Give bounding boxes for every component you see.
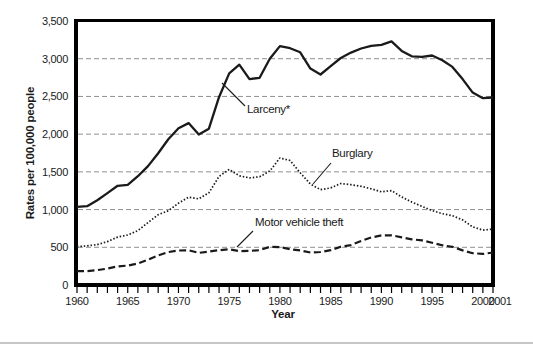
page-bottom-rule <box>0 342 533 344</box>
burglary-series-label: Burglary <box>332 147 372 159</box>
x-tick-label: 1960 <box>56 294 98 308</box>
larceny-line <box>77 41 493 207</box>
x-axis-line <box>74 283 495 287</box>
axis-border-right <box>491 19 495 287</box>
burglary-line <box>77 158 493 247</box>
x-tick-label: 2001 <box>479 294 521 308</box>
y-tick-label: 2,500 <box>22 89 68 103</box>
annotation-leader-line <box>237 231 253 247</box>
x-tick-label: 1970 <box>157 294 199 308</box>
axis-border-top <box>74 19 495 22</box>
x-tick-label: 1985 <box>310 294 352 308</box>
y-tick-label: 1,000 <box>22 203 68 217</box>
annotation-leader-line <box>313 163 331 184</box>
x-axis-title: Year <box>271 308 295 320</box>
y-tick-label: 500 <box>22 240 68 254</box>
crime-rates-figure: Rates per 100,000 people Year Larceny* B… <box>0 0 533 345</box>
y-tick-label: 0 <box>22 278 68 292</box>
y-tick-label: 1,500 <box>22 165 68 179</box>
larceny-series-label: Larceny* <box>247 103 290 115</box>
x-tick-label: 1995 <box>411 294 453 308</box>
y-tick-label: 3,500 <box>22 14 68 28</box>
y-tick-label: 3,000 <box>22 52 68 66</box>
y-tick-label: 2,000 <box>22 127 68 141</box>
x-tick-label: 1975 <box>208 294 250 308</box>
motor-vehicle-theft-series-label: Motor vehicle theft <box>255 216 343 228</box>
annotation-leader-line <box>222 83 245 106</box>
motor-vehicle-theft-line <box>77 235 493 271</box>
x-tick-label: 1980 <box>259 294 301 308</box>
x-tick-label: 1965 <box>107 294 149 308</box>
y-axis-title: Rates per 100,000 people <box>24 87 36 220</box>
x-tick-label: 1990 <box>360 294 402 308</box>
